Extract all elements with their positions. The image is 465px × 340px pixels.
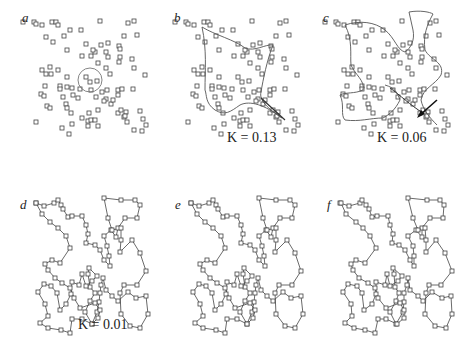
city-point [141, 117, 145, 121]
city-point [438, 198, 442, 202]
city-point [401, 43, 405, 47]
panel-a: a [0, 0, 150, 165]
city-point [56, 23, 60, 27]
city-point [132, 128, 136, 132]
city-point [68, 246, 72, 250]
city-point [106, 55, 110, 59]
city-point [56, 68, 60, 72]
city-point [256, 66, 260, 70]
city-point [200, 65, 204, 69]
city-point [122, 283, 126, 287]
city-point [257, 88, 261, 92]
elastic-net-curve [191, 198, 303, 333]
city-point [196, 35, 200, 39]
city-point [418, 88, 422, 92]
city-point [56, 226, 60, 230]
city-point [84, 42, 88, 46]
city-point [283, 324, 287, 328]
city-point [195, 84, 199, 88]
city-point [219, 132, 223, 136]
city-point [65, 85, 69, 89]
city-point [232, 283, 236, 287]
city-point [423, 312, 427, 316]
panel-label-d: d [20, 197, 27, 213]
city-point [373, 286, 377, 290]
city-point [441, 216, 445, 220]
city-point [239, 284, 243, 288]
city-point [367, 48, 371, 52]
city-point [360, 198, 364, 202]
city-point [370, 302, 374, 306]
city-point [60, 281, 64, 285]
city-point [140, 129, 144, 133]
city-point [386, 214, 390, 218]
city-point [413, 98, 417, 102]
city-point [443, 251, 447, 255]
city-point [34, 120, 38, 124]
city-point [373, 331, 377, 335]
city-point [93, 118, 97, 122]
city-point [135, 33, 139, 37]
city-point [211, 198, 215, 202]
city-point [243, 299, 247, 303]
city-point [284, 128, 288, 132]
city-point [363, 261, 367, 265]
city-point [288, 198, 292, 202]
city-point [232, 54, 236, 58]
city-point [254, 283, 258, 287]
city-point [87, 266, 91, 270]
city-point [126, 21, 130, 25]
city-point [251, 316, 255, 320]
city-point [299, 294, 303, 298]
city-point [203, 40, 207, 44]
city-point [34, 201, 38, 205]
city-point [46, 314, 50, 318]
city-point [96, 61, 100, 65]
city-point [205, 258, 209, 262]
city-point [72, 296, 76, 300]
city-point [367, 75, 371, 79]
city-point [420, 55, 424, 59]
city-point [84, 241, 88, 245]
city-point [84, 223, 88, 227]
city-point [44, 35, 48, 39]
city-point [366, 281, 370, 285]
city-point [416, 294, 420, 298]
city-point [68, 28, 72, 32]
city-point [376, 296, 380, 300]
city-point [43, 84, 47, 88]
city-point [88, 80, 92, 84]
city-point [391, 118, 395, 122]
city-point [383, 283, 387, 287]
city-point [374, 280, 378, 284]
k-value-c: K = 0.06 [377, 130, 427, 146]
city-point [243, 285, 247, 289]
city-point [98, 291, 102, 295]
city-point [256, 50, 260, 54]
city-point [65, 106, 69, 110]
city-point [424, 250, 428, 254]
city-point [58, 261, 62, 265]
city-point [373, 93, 377, 97]
city-point [393, 285, 397, 289]
city-point [390, 80, 394, 84]
city-point [362, 308, 366, 312]
city-point [200, 106, 204, 110]
city-point [427, 120, 431, 124]
city-point [250, 19, 254, 23]
city-point [407, 88, 411, 92]
city-point [132, 19, 136, 23]
city-point [80, 116, 84, 120]
city-point [201, 268, 205, 272]
city-point [289, 296, 293, 300]
city-point [397, 291, 401, 295]
city-point [109, 102, 113, 106]
elastic-net-curve [340, 198, 452, 333]
city-point [277, 283, 281, 287]
city-point [248, 243, 252, 247]
city-point [388, 310, 392, 314]
city-point [260, 244, 264, 248]
city-point [84, 75, 88, 79]
city-point [93, 301, 97, 305]
city-point [102, 234, 106, 238]
